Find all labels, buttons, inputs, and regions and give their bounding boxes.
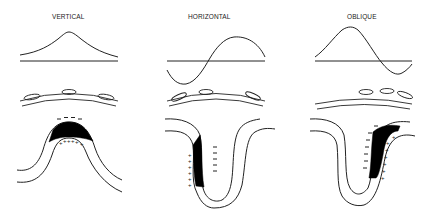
scalp-arc-inner (169, 99, 263, 106)
svg-text:+: + (188, 182, 192, 188)
positive-signs: + + + + + + (59, 138, 84, 147)
waveform-gaussian (20, 32, 118, 57)
scalp-arc-inner (317, 105, 410, 110)
panel-title-vertical: VERTICAL (52, 13, 85, 20)
electrode-left (359, 90, 373, 95)
electrode-center (380, 89, 394, 94)
sulcus-inner (310, 131, 415, 206)
negative-signs (57, 118, 82, 120)
svg-text:+: + (80, 141, 84, 147)
electrode-right (98, 93, 115, 101)
panel-horizontal: HORIZONTAL + + + + + + (165, 13, 275, 208)
electrode-left (171, 91, 188, 102)
svg-text:+: + (383, 161, 387, 167)
positive-signs: + + + + + + (188, 152, 192, 188)
electrode-left (24, 93, 41, 101)
sulcus-inner (165, 128, 275, 208)
electrode-right (245, 90, 262, 101)
scalp-arc-outer (315, 99, 412, 104)
waveform-oblique (315, 27, 412, 74)
svg-text:+: + (381, 175, 385, 181)
svg-text:+: + (386, 140, 390, 146)
electrode-right (397, 90, 414, 100)
sulcus-outer (165, 119, 260, 201)
scalp-arc-inner (22, 99, 116, 106)
svg-text:+: + (385, 147, 389, 153)
panel-title-horizontal: HORIZONTAL (188, 13, 231, 20)
panel-oblique: OBLIQUE + + + + + + (310, 13, 415, 206)
cortex-patch (193, 135, 204, 187)
svg-text:+: + (382, 168, 386, 174)
dipole-orientation-diagram: VERTICAL + + + + + + (0, 0, 435, 210)
panel-title-oblique: OBLIQUE (347, 13, 377, 21)
svg-text:+: + (384, 154, 388, 160)
gyrus-inner (17, 138, 122, 192)
panel-vertical: VERTICAL + + + + + + (17, 13, 122, 192)
negative-signs (213, 147, 217, 171)
svg-text:+: + (392, 134, 396, 140)
svg-text:+: + (75, 139, 79, 145)
